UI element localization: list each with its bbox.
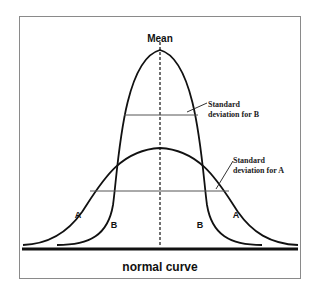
label-a-left: A bbox=[75, 210, 82, 220]
label-b-right: B bbox=[197, 220, 204, 230]
sd-b-label-line1: Standard bbox=[208, 100, 241, 109]
normal-curve-figure: Mean Standard deviation for B Standard d… bbox=[0, 0, 316, 295]
sd-a-leader bbox=[216, 161, 233, 189]
diagram-canvas: Mean Standard deviation for B Standard d… bbox=[0, 0, 316, 295]
sd-a-label-line2: deviation for A bbox=[233, 166, 284, 175]
sd-a-label-line1: Standard bbox=[233, 156, 266, 165]
label-a-right: A bbox=[233, 210, 240, 220]
mean-label: Mean bbox=[147, 33, 173, 44]
diagram-title: normal curve bbox=[122, 260, 198, 274]
label-b-left: B bbox=[111, 220, 118, 230]
sd-b-leader bbox=[187, 103, 207, 112]
sd-b-label-line2: deviation for B bbox=[208, 110, 260, 119]
